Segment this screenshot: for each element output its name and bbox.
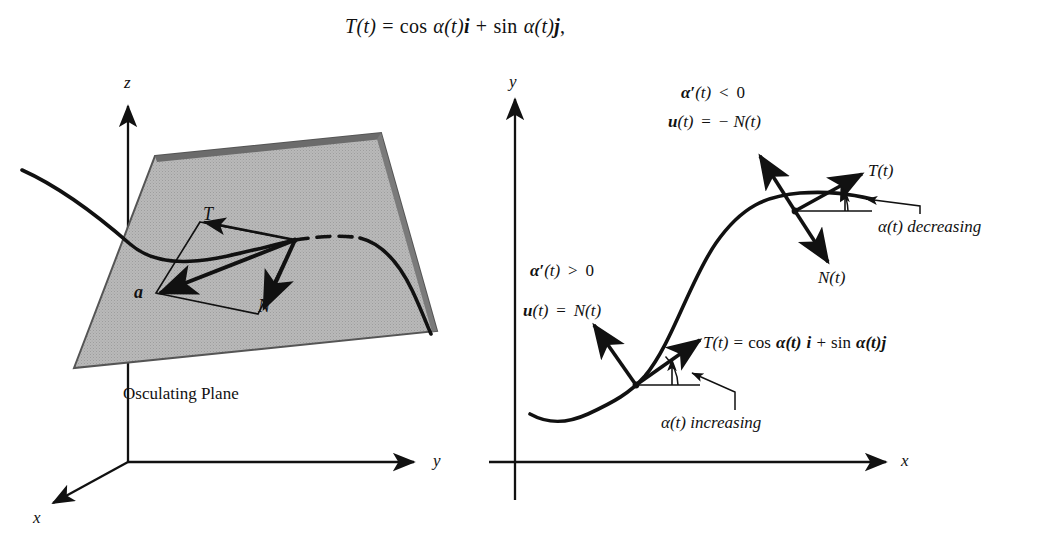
inline-alpha-2: α(t) — [856, 333, 881, 352]
alpha-symbol-upper: α — [681, 83, 690, 102]
annotation-alpha-increasing: α(t) increasing — [661, 414, 761, 431]
vector-N-upper — [795, 211, 828, 262]
annotation-u-equals-N: u(t)=N(t) — [523, 302, 601, 319]
value-upper: 0 — [736, 83, 745, 102]
relation-upper: < — [719, 83, 729, 102]
tangency-point-left — [292, 237, 297, 242]
arg-upper: (t) — [695, 83, 711, 102]
vector-label-T-left: T — [203, 205, 213, 223]
vector-label-N-left: N — [258, 297, 270, 315]
annotation-u-equals-minus-N: u(t)=−N(t) — [668, 113, 761, 130]
inline-alpha-1: α(t) — [776, 333, 801, 352]
figure-graphics — [0, 0, 1053, 549]
inline-plus: + — [816, 333, 826, 352]
inline-i-vector: i — [807, 333, 812, 352]
leader-increasing — [692, 373, 735, 410]
vector-label-a-left: a — [134, 283, 143, 301]
u-equals-upper: = — [701, 112, 711, 131]
leader-decreasing — [866, 199, 920, 214]
inline-equals: = — [734, 333, 744, 352]
vector-u-upper — [760, 156, 795, 211]
axis-label-x-left: x — [33, 509, 41, 526]
vector-u-lower — [594, 325, 636, 385]
vector-label-T-upper: T(t) — [868, 162, 894, 179]
value-lower: 0 — [585, 261, 594, 280]
u-arg-upper: (t) — [677, 112, 693, 131]
left-diagram — [22, 106, 437, 503]
alpha-symbol-lower: α — [530, 261, 539, 280]
right-diagram — [489, 99, 920, 500]
annotation-alpha-decreasing: α(t) decreasing — [878, 218, 981, 235]
annotation-alpha-prime-negative: α′(t)<0 — [681, 84, 745, 101]
annotation-tangent-equation: T(t)=cosα(t)i+sinα(t)j — [703, 334, 886, 351]
axis-label-y-right: y — [509, 73, 517, 90]
inline-sin: sin — [831, 333, 851, 352]
axis-label-x-right: x — [901, 452, 909, 469]
u-rhs-lower: N(t) — [574, 301, 601, 320]
axis-label-y-left: y — [433, 452, 441, 469]
upper-tangency-group — [760, 156, 920, 262]
arg-lower: (t) — [544, 261, 560, 280]
axis-label-z: z — [124, 74, 131, 91]
vector-label-N-upper: N(t) — [818, 269, 845, 286]
u-arg-lower: (t) — [532, 301, 548, 320]
inline-lhs: T(t) — [703, 333, 729, 352]
axis-x-left — [53, 462, 128, 503]
inline-j-vector: j — [882, 333, 887, 352]
minus-sign-upper: − — [719, 112, 729, 131]
figure-canvas: T(t)=cosα(t)i+sinα(t)j, — [0, 0, 1053, 549]
u-rhs-upper: N(t) — [733, 112, 760, 131]
vector-T-lower — [636, 340, 700, 385]
inline-cos: cos — [748, 333, 771, 352]
u-equals-lower: = — [556, 301, 566, 320]
annotation-alpha-prime-positive: α′(t)>0 — [530, 262, 594, 279]
relation-lower: > — [568, 261, 578, 280]
osculating-plane-label: Osculating Plane — [123, 385, 239, 402]
